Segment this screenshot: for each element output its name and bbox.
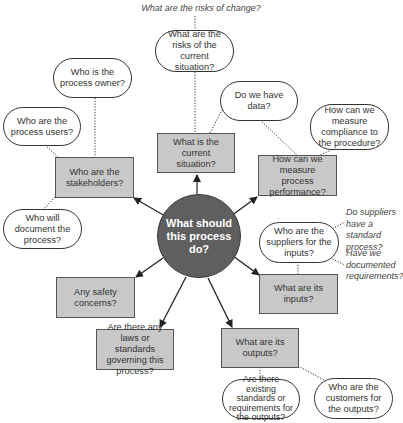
oval-customers: Who are the customers for the outputs? bbox=[314, 378, 393, 419]
center-hub: What should this process do? bbox=[157, 194, 241, 278]
dotted-link bbox=[298, 366, 326, 381]
box-current-situation: What is the current situation? bbox=[157, 133, 235, 173]
dotted-link bbox=[44, 197, 55, 209]
note-documented-requirements: Have we documented requirements? bbox=[346, 248, 402, 283]
box-outputs: What are its outputs? bbox=[221, 328, 299, 368]
arrow-to-safety bbox=[136, 258, 163, 277]
oval-document: Who will document the process? bbox=[3, 209, 82, 249]
arrow-to-outputs bbox=[208, 278, 232, 327]
box-measure-performance: How can we measure process performance? bbox=[258, 155, 337, 196]
note-risks-of-change: What are the risks of change? bbox=[116, 3, 286, 15]
oval-risks-current: What are the risks of the current situat… bbox=[155, 30, 234, 72]
dotted-link bbox=[260, 120, 298, 156]
dotted-link bbox=[210, 110, 222, 133]
oval-process-users: Who are the process users? bbox=[3, 107, 81, 146]
arrow-to-laws bbox=[160, 277, 186, 327]
oval-existing-standards: Are there existing standards or requirem… bbox=[222, 379, 300, 419]
dotted-link bbox=[45, 145, 58, 157]
oval-suppliers: Who are the suppliers for the inputs? bbox=[259, 222, 339, 263]
oval-measure-compliance: How can we measure compliance to the pro… bbox=[310, 104, 389, 150]
box-safety: Any safety concerns? bbox=[56, 277, 135, 318]
dotted-link bbox=[330, 258, 345, 265]
oval-process-owner: Who is the process owner? bbox=[53, 58, 132, 98]
box-laws: Are there any laws or standards governin… bbox=[96, 329, 174, 370]
arrow-to-performance bbox=[231, 197, 257, 216]
oval-have-data: Do we have data? bbox=[220, 81, 298, 121]
arrow-to-stakeholders bbox=[134, 198, 165, 216]
box-stakeholders: Who are the stakeholders? bbox=[55, 157, 134, 198]
note-suppliers-standard: Do suppliers have a standard process? bbox=[346, 207, 402, 253]
box-inputs: What are its inputs? bbox=[259, 274, 338, 314]
arrow-to-inputs bbox=[233, 256, 259, 275]
center-hub-label: What should this process do? bbox=[166, 217, 232, 256]
